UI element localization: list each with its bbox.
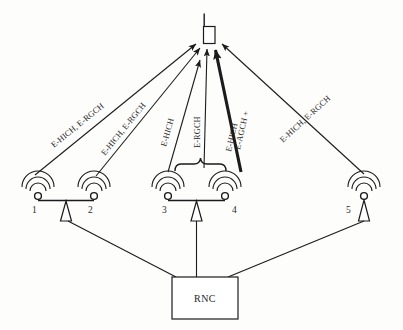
channel-label-link-4: E-RGCH xyxy=(193,116,202,148)
base-station-label-4: 4 xyxy=(232,205,237,215)
base-station-2[interactable]: 2 xyxy=(78,171,110,215)
rnc-link-left xyxy=(68,221,176,277)
base-station-label-2: 2 xyxy=(88,205,93,215)
base-station-5[interactable]: 5 xyxy=(346,171,380,221)
base-station-4[interactable]: 4 xyxy=(209,171,241,215)
antenna-hub-icon xyxy=(165,193,172,200)
ue-node[interactable] xyxy=(204,14,216,44)
channel-label-group: E-HICH, E-RGCH E-HICH, E-RGCH E-HICH E-R… xyxy=(50,94,333,157)
channel-label-link-2: E-HICH, E-RGCH xyxy=(100,101,148,157)
serving-cell-brace xyxy=(175,158,226,171)
link-arrow-bs1 xyxy=(35,44,196,175)
channel-label-link-1: E-HICH, E-RGCH xyxy=(50,101,106,149)
mobile-handset-body-icon xyxy=(204,27,216,44)
node-b-triangle-1-2 xyxy=(61,201,72,221)
base-station-1[interactable]: 1 xyxy=(22,171,54,215)
antenna-arc-inner-icon xyxy=(160,183,176,191)
antenna-hub-icon xyxy=(91,193,98,200)
node-b-group-3-4 xyxy=(168,201,225,222)
antenna-arc-inner-icon xyxy=(30,183,46,191)
link-arrow-bs3-ergch xyxy=(204,49,207,168)
base-station-label-5: 5 xyxy=(346,205,351,215)
antenna-arc-inner-icon xyxy=(356,183,372,191)
link-arrow-bs3-ehich xyxy=(168,60,200,172)
base-station-label-1: 1 xyxy=(32,205,37,215)
antenna-arc-inner-icon xyxy=(217,183,233,191)
base-station-label-3: 3 xyxy=(162,205,167,215)
rnc-label: RNC xyxy=(194,293,216,304)
link-arrow-bs5 xyxy=(222,44,364,174)
network-diagram: E-HICH, E-RGCH E-HICH, E-RGCH E-HICH E-R… xyxy=(0,0,403,330)
node-b-group-1-2 xyxy=(38,201,94,222)
link-arrow-bs4-eagch-ehich xyxy=(216,50,242,172)
channel-label-link-3: E-HICH xyxy=(159,117,176,147)
diagram-canvas: E-HICH, E-RGCH E-HICH, E-RGCH E-HICH E-R… xyxy=(0,0,403,330)
rnc-node[interactable]: RNC xyxy=(172,277,238,319)
rnc-links xyxy=(68,221,364,277)
base-station-3[interactable]: 3 xyxy=(152,171,184,215)
antenna-arc-inner-icon xyxy=(86,183,102,191)
antenna-hub-icon xyxy=(35,193,42,200)
node-b-triangle-5 xyxy=(359,200,370,221)
antenna-hub-icon xyxy=(222,193,229,200)
node-b-triangle-3-4 xyxy=(191,201,202,221)
rnc-link-right xyxy=(228,221,364,277)
